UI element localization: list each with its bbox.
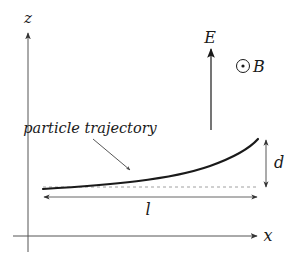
magnetic-field: B <box>237 57 266 76</box>
trajectory-pointer-arrow <box>93 139 130 170</box>
magnetic-field-label: B <box>252 57 265 76</box>
x-axis: x <box>13 226 273 245</box>
out-of-page-icon <box>237 60 250 73</box>
particle-trajectory-curve <box>43 139 258 189</box>
length-dimension: l <box>44 197 257 219</box>
trajectory-label: particle trajectory <box>23 120 157 136</box>
electric-field: E <box>203 28 216 130</box>
displacement-dimension-label: d <box>274 153 284 172</box>
trajectory-annotation: particle trajectory <box>23 120 157 170</box>
particle-drift-diagram: z x E B particle trajectory l d <box>0 0 293 261</box>
x-axis-label: x <box>263 226 272 245</box>
length-dimension-label: l <box>145 200 150 219</box>
electric-field-label: E <box>203 28 216 47</box>
displacement-dimension: d <box>266 140 284 187</box>
z-axis-label: z <box>23 9 32 27</box>
